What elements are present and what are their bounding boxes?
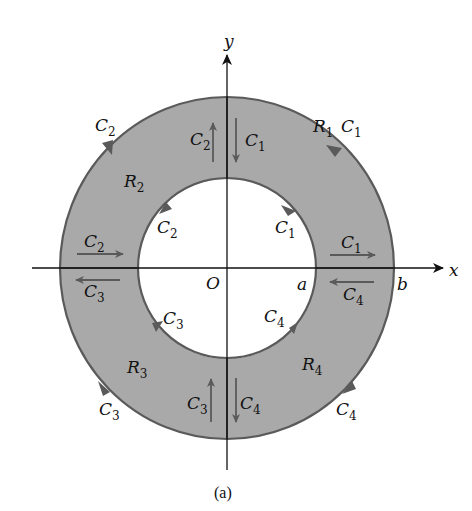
svg-text:C1: C1 xyxy=(341,116,362,140)
outer-radius-label: b xyxy=(397,274,408,294)
svg-text:C4: C4 xyxy=(336,399,357,423)
svg-text:C2: C2 xyxy=(95,115,116,139)
curve-label-c1-inner: C1 xyxy=(275,217,296,241)
origin-label: O xyxy=(206,273,220,293)
x-axis-label: x xyxy=(449,260,459,280)
curve-label-c3-inner: C3 xyxy=(163,308,184,332)
curve-label-c4-outer: C4 xyxy=(336,399,357,423)
svg-text:C3: C3 xyxy=(99,399,120,423)
annulus-diagram: y x O a b R1 R2 R3 R4 C1 C1 C1 C1 C2 C2 … xyxy=(0,0,472,511)
curve-label-c2-inner: C2 xyxy=(157,217,178,241)
curve-label-c2-outer: C2 xyxy=(95,115,116,139)
svg-text:C1: C1 xyxy=(275,217,296,241)
svg-text:C4: C4 xyxy=(264,306,285,330)
y-axis-label: y xyxy=(223,31,234,51)
svg-text:C3: C3 xyxy=(163,308,184,332)
curve-label-c4-inner: C4 xyxy=(264,306,285,330)
curve-label-c1-outer: C1 xyxy=(341,116,362,140)
figure-caption: (a) xyxy=(214,484,232,502)
curve-label-c3-outer: C3 xyxy=(99,399,120,423)
inner-radius-label: a xyxy=(297,274,307,294)
svg-text:C2: C2 xyxy=(157,217,178,241)
